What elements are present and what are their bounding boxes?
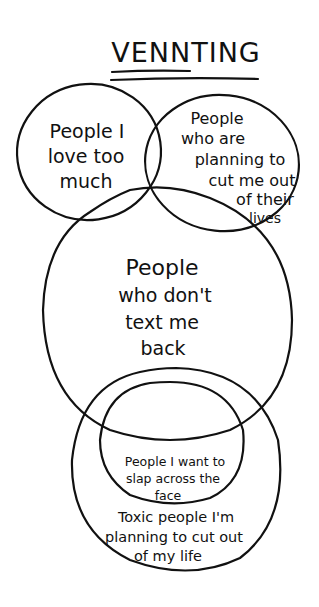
set-label-love: People I love too much xyxy=(48,120,125,192)
set-label-toxic: Toxic people I'm planning to cut out of … xyxy=(105,509,243,564)
svg-text:People I want to: People I want to xyxy=(125,454,225,469)
set-label-no-text-back: People who don't text me back xyxy=(118,255,212,359)
venn-diagram: VENNTING People I love too much People w… xyxy=(0,0,319,607)
svg-text:face: face xyxy=(155,488,182,503)
svg-text:text me: text me xyxy=(125,311,199,333)
svg-text:who don't: who don't xyxy=(118,284,212,306)
diagram-title: VENNTING xyxy=(111,37,261,68)
svg-text:People: People xyxy=(190,109,243,128)
title-underline-long xyxy=(111,78,258,80)
svg-text:love too: love too xyxy=(48,145,125,167)
svg-text:planning to: planning to xyxy=(195,150,286,169)
svg-text:back: back xyxy=(140,337,185,359)
title-underline-short xyxy=(112,71,190,72)
svg-text:People: People xyxy=(125,255,198,280)
svg-text:planning to cut out: planning to cut out xyxy=(105,529,243,545)
svg-text:Toxic people I'm: Toxic people I'm xyxy=(117,509,234,525)
svg-text:of my life: of my life xyxy=(134,548,202,564)
svg-text:of their: of their xyxy=(236,190,294,209)
set-label-slap: People I want to slap across the face xyxy=(125,454,225,503)
svg-text:lives: lives xyxy=(249,210,281,226)
set-label-cut-me-out: People who are planning to cut me out of… xyxy=(181,109,296,226)
svg-text:People I: People I xyxy=(50,120,125,142)
svg-text:cut me out: cut me out xyxy=(208,171,295,190)
svg-text:slap across the: slap across the xyxy=(126,471,220,486)
svg-text:who are: who are xyxy=(181,129,245,148)
svg-text:much: much xyxy=(59,170,112,192)
